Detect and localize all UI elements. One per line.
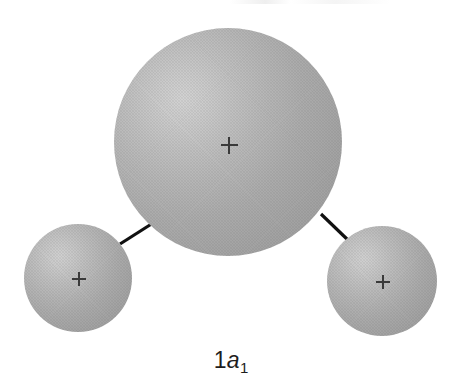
orbital-label: 1a1 xyxy=(0,347,462,381)
plus-vertical-bar xyxy=(228,137,230,154)
orbital-label-subscript: 1 xyxy=(240,359,248,376)
scan-artifact xyxy=(230,0,390,4)
bond-left-line xyxy=(120,223,153,244)
plus-sign-icon-center xyxy=(221,137,238,154)
orbital-label-prefix: 1 xyxy=(214,347,227,373)
plus-vertical-bar xyxy=(78,272,80,286)
plus-sign-icon-left xyxy=(72,272,86,286)
plus-vertical-bar xyxy=(382,275,384,289)
plus-sign-icon-right xyxy=(376,275,390,289)
molecular-orbital-figure: 1a1 xyxy=(0,0,462,383)
orbital-label-symbol: a xyxy=(227,347,240,373)
bond-right-line xyxy=(321,214,349,241)
